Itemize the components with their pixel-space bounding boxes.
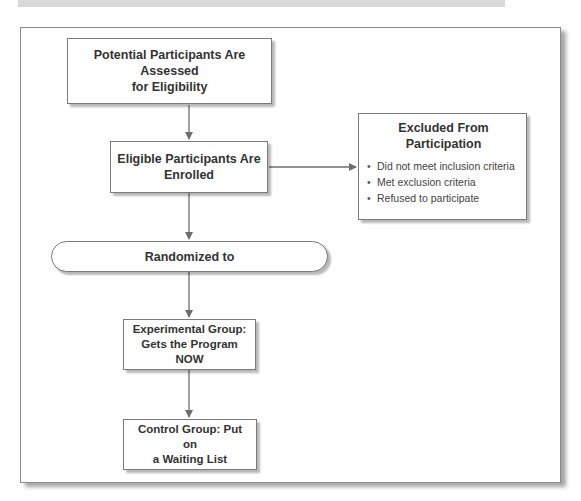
node-control-line1: Control Group: Put on: [130, 422, 250, 452]
excluded-title-line2: Participation: [367, 136, 520, 152]
node-experimental: Experimental Group: Gets the Program NOW: [123, 319, 256, 370]
node-assessed-line2: for Eligibility: [74, 79, 265, 95]
node-randomized-label: Randomized to: [145, 250, 235, 264]
excluded-reasons-list: Did not meet inclusion criteria Met excl…: [367, 158, 520, 206]
excluded-title-line1: Excluded From: [367, 120, 520, 136]
node-control-line2: a Waiting List: [130, 452, 250, 467]
excluded-reason: Refused to participate: [367, 190, 520, 206]
node-enrolled: Eligible Participants Are Enrolled: [110, 141, 268, 193]
node-excluded: Excluded From Participation Did not meet…: [358, 113, 527, 220]
node-experimental-line2: Gets the Program NOW: [130, 337, 249, 367]
node-assessed: Potential Participants Are Assessed for …: [67, 38, 272, 104]
node-enrolled-line2: Enrolled: [117, 167, 260, 183]
node-experimental-line1: Experimental Group:: [130, 322, 249, 337]
excluded-reason: Did not meet inclusion criteria: [367, 158, 520, 174]
node-assessed-line1: Potential Participants Are Assessed: [74, 47, 265, 79]
node-control: Control Group: Put on a Waiting List: [123, 419, 257, 470]
excluded-reason: Met exclusion criteria: [367, 174, 520, 190]
excluded-title: Excluded From Participation: [367, 120, 520, 152]
node-enrolled-line1: Eligible Participants Are: [117, 151, 260, 167]
node-randomized: Randomized to: [51, 241, 328, 272]
